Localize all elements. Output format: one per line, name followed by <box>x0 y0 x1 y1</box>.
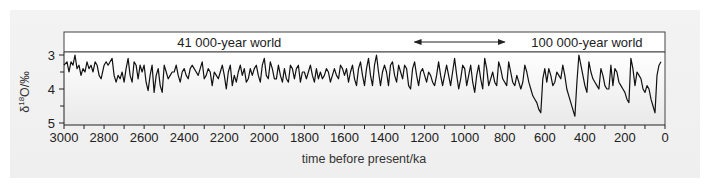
y-tick-label: 4 <box>48 82 55 97</box>
label-41000-year-world: 41 000-year world <box>177 35 281 50</box>
x-axis: 3000280026002400220020001800160014001200… <box>50 125 669 145</box>
y-axis-title: δ18O/‰ <box>17 71 32 113</box>
x-tick-label: 400 <box>574 130 596 145</box>
label-100000-year-world: 100 000-year world <box>531 35 642 50</box>
x-tick-label: 1000 <box>450 130 479 145</box>
y-tick-label: 5 <box>48 116 55 131</box>
x-tick-label: 3000 <box>50 130 79 145</box>
x-tick-label: 1800 <box>290 130 319 145</box>
x-tick-label: 2600 <box>130 130 159 145</box>
x-tick-label: 2000 <box>250 130 279 145</box>
svg-text:δ18O/‰: δ18O/‰ <box>17 71 32 113</box>
x-tick-label: 200 <box>614 130 636 145</box>
x-axis-title: time before present/ka <box>302 152 426 166</box>
x-tick-label: 0 <box>661 130 668 145</box>
x-tick-label: 1400 <box>370 130 399 145</box>
delta-18o-chart: 41 000-year world 100 000-year world 345… <box>0 0 711 189</box>
y-tick-label: 3 <box>48 48 55 63</box>
x-tick-label: 2800 <box>90 130 119 145</box>
x-tick-label: 1600 <box>330 130 359 145</box>
x-tick-label: 2400 <box>170 130 199 145</box>
y-axis: 345 <box>48 48 64 131</box>
x-tick-label: 600 <box>534 130 556 145</box>
x-tick-label: 1200 <box>410 130 439 145</box>
x-tick-label: 800 <box>494 130 516 145</box>
x-tick-label: 2200 <box>210 130 239 145</box>
